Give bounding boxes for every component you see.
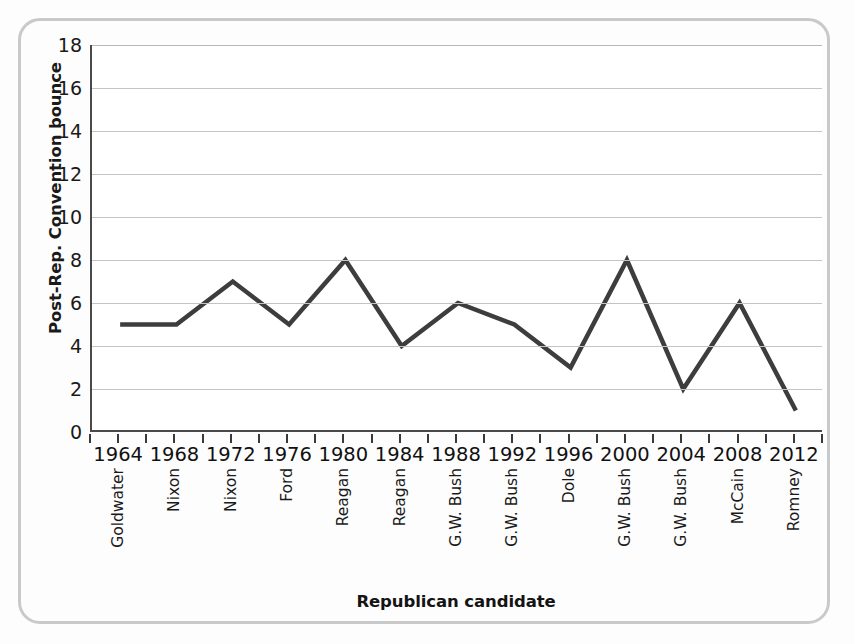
x-candidate-label-4: Reagan: [332, 468, 354, 586]
line-series-svg: [92, 45, 824, 432]
x-tick-1980: [342, 434, 344, 443]
gridline-y-18: [92, 45, 822, 46]
x-minor-tick-2002: [652, 434, 654, 443]
x-minor-tick-1970: [202, 434, 204, 443]
gridline-y-14: [92, 131, 822, 132]
x-minor-tick-1962: [89, 434, 91, 443]
gridline-y-4: [92, 346, 822, 347]
y-tick-label-12: 12: [42, 165, 82, 184]
x-minor-tick-1982: [371, 434, 373, 443]
x-candidate-label-0: Goldwater: [107, 468, 129, 586]
y-tick-label-8: 8: [42, 251, 82, 270]
y-axis-tick-labels: 024681012141618: [38, 0, 82, 644]
x-candidate-label-9: G.W. Bush: [614, 468, 636, 586]
x-tick-1972: [230, 434, 232, 443]
x-candidate-label-6: G.W. Bush: [445, 468, 467, 586]
gridline-y-8: [92, 260, 822, 261]
x-candidate-label-8: Dole: [558, 468, 580, 586]
gridline-y-2: [92, 389, 822, 390]
y-tick-label-0: 0: [42, 423, 82, 442]
x-minor-tick-2006: [708, 434, 710, 443]
x-tick-2000: [624, 434, 626, 443]
x-tick-1988: [455, 434, 457, 443]
x-candidate-label-11: McCain: [727, 468, 749, 586]
x-candidate-label-3: Ford: [276, 468, 298, 586]
x-minor-tick-1978: [314, 434, 316, 443]
gridline-y-12: [92, 174, 822, 175]
x-tick-2008: [737, 434, 739, 443]
y-tick-label-2: 2: [42, 380, 82, 399]
x-tick-1964: [117, 434, 119, 443]
x-minor-tick-1966: [145, 434, 147, 443]
x-tick-2004: [680, 434, 682, 443]
x-minor-tick-1974: [258, 434, 260, 443]
gridline-y-6: [92, 303, 822, 304]
x-candidate-label-5: Reagan: [389, 468, 411, 586]
x-tick-1996: [568, 434, 570, 443]
gridline-y-16: [92, 88, 822, 89]
x-tick-1992: [511, 434, 513, 443]
x-tick-1968: [173, 434, 175, 443]
y-tick-label-10: 10: [42, 208, 82, 227]
x-candidate-label-12: Romney: [783, 468, 805, 586]
bounce-line-series: [120, 260, 796, 411]
y-tick-label-6: 6: [42, 294, 82, 313]
plot-area: [90, 45, 822, 432]
y-tick-label-14: 14: [42, 122, 82, 141]
x-axis-title: Republican candidate: [90, 592, 822, 611]
x-candidate-label-1: Nixon: [163, 468, 185, 586]
figure-root: Post-Rep. Convention bounce 024681012141…: [0, 0, 854, 644]
gridline-y-10: [92, 217, 822, 218]
x-candidate-label-10: G.W. Bush: [670, 468, 692, 586]
y-tick-label-16: 16: [42, 79, 82, 98]
x-axis-candidate-labels: GoldwaterNixonNixonFordReaganReaganG.W. …: [90, 472, 822, 590]
x-minor-tick-2014: [821, 434, 823, 443]
x-tick-1976: [286, 434, 288, 443]
x-candidate-label-2: Nixon: [220, 468, 242, 586]
x-tick-2012: [793, 434, 795, 443]
x-minor-tick-1986: [427, 434, 429, 443]
x-minor-tick-1990: [483, 434, 485, 443]
x-minor-tick-2010: [765, 434, 767, 443]
y-tick-label-18: 18: [42, 36, 82, 55]
x-minor-tick-1998: [596, 434, 598, 443]
x-year-label-2012: 2012: [759, 444, 829, 466]
x-tick-1984: [399, 434, 401, 443]
x-minor-tick-1994: [539, 434, 541, 443]
x-candidate-label-7: G.W. Bush: [501, 468, 523, 586]
y-tick-label-4: 4: [42, 337, 82, 356]
x-axis-year-labels: 1964196819721976198019841988199219962000…: [90, 444, 822, 470]
